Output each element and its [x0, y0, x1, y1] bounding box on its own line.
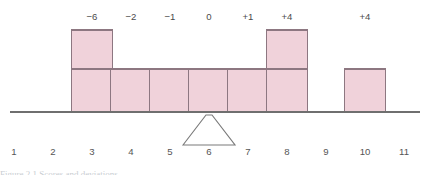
- bar-position-10: [345, 69, 386, 112]
- bar-position-8: [267, 30, 308, 112]
- deviation-label-position-10: +4: [360, 11, 372, 22]
- deviation-label-position-3: −6: [87, 11, 98, 22]
- number-line-label-9: 9: [323, 146, 328, 157]
- number-line-label-10: 10: [360, 146, 371, 157]
- figure-container: −6−2−10+1+4+4 1234567891011 Figure 2.1 S…: [0, 0, 431, 175]
- number-line-label-7: 7: [245, 146, 250, 157]
- number-line-labels-group: 1234567891011: [11, 146, 409, 157]
- caption-fragment: Figure 2.1 Scores and deviations: [0, 169, 431, 175]
- number-line-label-2: 2: [50, 146, 55, 157]
- deviation-label-position-8: +4: [282, 11, 294, 22]
- deviation-labels-group: −6−2−10+1+4+4: [87, 11, 372, 22]
- deviation-label-position-6: 0: [206, 11, 211, 22]
- number-line-label-4: 4: [128, 146, 134, 157]
- deviation-label-position-5: −1: [165, 11, 176, 22]
- number-line-label-5: 5: [167, 146, 172, 157]
- bar-position-7: [228, 69, 269, 112]
- number-line-label-6: 6: [206, 146, 211, 157]
- number-line-label-11: 11: [399, 146, 409, 157]
- deviation-label-position-4: −2: [126, 11, 137, 22]
- balance-beam-diagram: −6−2−10+1+4+4 1234567891011: [0, 0, 431, 175]
- number-line-label-8: 8: [284, 146, 289, 157]
- bar-position-3: [72, 30, 113, 112]
- bars-group: [72, 30, 386, 112]
- fulcrum-triangle-icon: [183, 115, 235, 145]
- bar-position-5: [150, 69, 191, 112]
- number-line-label-1: 1: [11, 146, 16, 157]
- deviation-label-position-7: +1: [243, 11, 254, 22]
- number-line-label-3: 3: [89, 146, 94, 157]
- bar-position-6: [189, 69, 230, 112]
- bar-position-4: [111, 69, 152, 112]
